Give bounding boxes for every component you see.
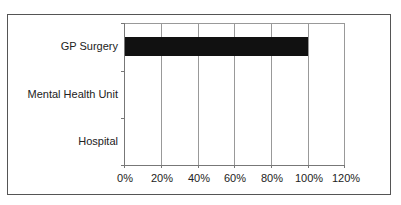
x-tick bbox=[344, 165, 345, 168]
y-tick bbox=[121, 71, 124, 72]
x-tick-label: 100% bbox=[295, 172, 323, 184]
category-label-gp-surgery: GP Surgery bbox=[61, 40, 118, 52]
x-tick bbox=[271, 165, 272, 168]
category-label-hospital: Hospital bbox=[78, 135, 118, 147]
x-tick-label: 0% bbox=[117, 172, 133, 184]
x-tick-label: 120% bbox=[332, 172, 360, 184]
x-tick-label: 20% bbox=[151, 172, 173, 184]
x-tick bbox=[124, 165, 125, 168]
bar-gp-surgery bbox=[125, 37, 308, 56]
x-tick-label: 80% bbox=[261, 172, 283, 184]
x-tick bbox=[234, 165, 235, 168]
x-tick-label: 60% bbox=[224, 172, 246, 184]
x-tick bbox=[198, 165, 199, 168]
x-tick bbox=[161, 165, 162, 168]
x-tick-label: 40% bbox=[188, 172, 210, 184]
x-tick bbox=[308, 165, 309, 168]
y-tick bbox=[121, 23, 124, 24]
y-tick bbox=[121, 118, 124, 119]
category-label-mental-health-unit: Mental Health Unit bbox=[28, 88, 119, 100]
